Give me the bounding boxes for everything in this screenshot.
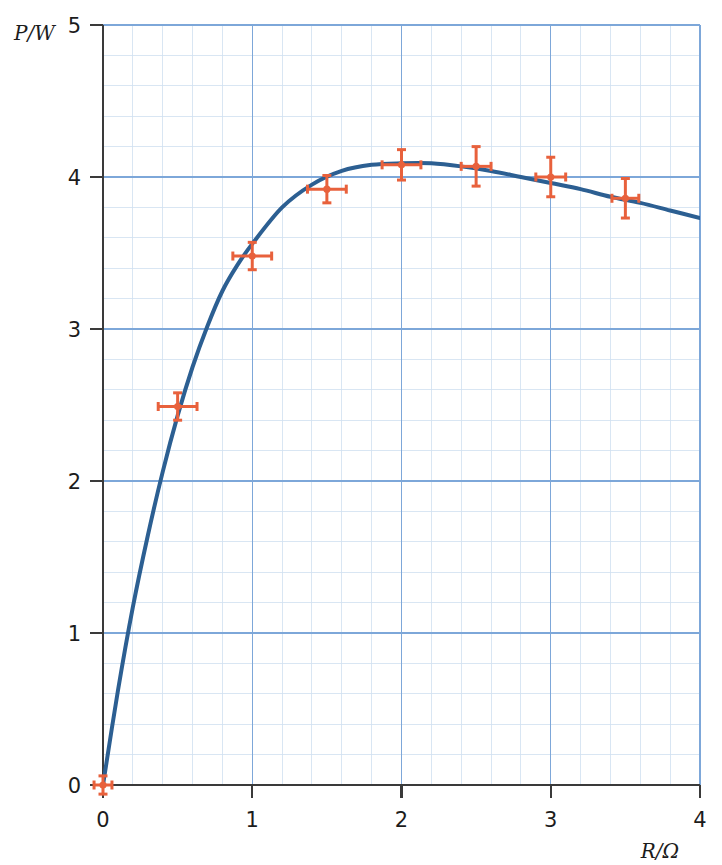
data-point-marker [398, 161, 405, 168]
data-point-marker [547, 173, 554, 180]
x-tick-label: 1 [246, 808, 259, 832]
x-tick-label: 4 [693, 808, 706, 832]
y-tick-label: 0 [68, 774, 81, 798]
y-tick-label: 1 [68, 622, 81, 646]
data-point-marker [622, 195, 629, 202]
power-vs-resistance-chart: 01234501234 P/W R/Ω [0, 0, 722, 865]
y-tick-label: 5 [68, 14, 81, 38]
data-point-marker [473, 163, 480, 170]
data-point-marker [99, 781, 106, 788]
x-axis-title: R/Ω [640, 839, 679, 863]
x-tick-label: 2 [395, 808, 408, 832]
data-point-marker [323, 186, 330, 193]
x-tick-label: 3 [544, 808, 557, 832]
chart-figure: 01234501234 P/W R/Ω [0, 0, 722, 865]
y-axis-title: P/W [13, 21, 56, 45]
y-tick-label: 2 [68, 470, 81, 494]
chart-background [0, 0, 722, 865]
x-tick-label: 0 [96, 808, 109, 832]
data-point-marker [249, 252, 256, 259]
data-point-marker [174, 403, 181, 410]
y-tick-label: 3 [68, 318, 81, 342]
y-tick-label: 4 [68, 166, 81, 190]
